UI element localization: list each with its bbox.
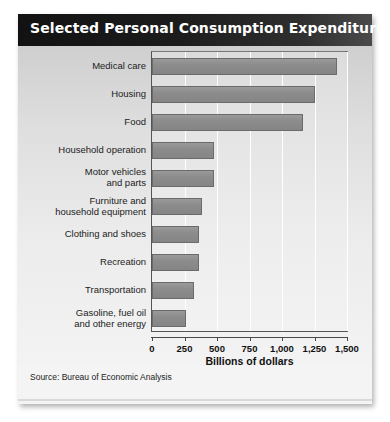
bar[interactable]: [152, 310, 186, 327]
bar[interactable]: [152, 226, 199, 243]
bar[interactable]: [152, 58, 337, 75]
bar[interactable]: [152, 86, 315, 103]
footer-divider: [18, 399, 372, 401]
x-axis-tick: [282, 337, 283, 341]
x-axis-tick: [217, 337, 218, 341]
category-label: Gasoline, fuel oiland other energy: [18, 307, 146, 329]
bar[interactable]: [152, 170, 214, 187]
bar-row: [152, 142, 347, 159]
category-label: Medical care: [18, 60, 146, 71]
bar-row: [152, 58, 347, 75]
category-label-line: Furniture and: [18, 195, 146, 206]
chart-body: Medical careHousingFoodHousehold operati…: [18, 46, 372, 366]
category-label: Household operation: [18, 144, 146, 155]
category-label: Motor vehiclesand parts: [18, 166, 146, 188]
category-label: Transportation: [18, 284, 146, 295]
category-label-line: Housing: [18, 88, 146, 99]
category-label-line: Transportation: [18, 284, 146, 295]
chart-footer: Source: Bureau of Economic Analysis: [18, 366, 372, 404]
chart-screenshot: Selected Personal Consumption Expenditur…: [0, 0, 390, 422]
x-axis-tick-label: 1,000: [270, 343, 294, 354]
bar-row: [152, 310, 347, 327]
x-axis-tick-label: 1,250: [303, 343, 327, 354]
category-label-line: and other energy: [18, 318, 146, 329]
category-label-line: Gasoline, fuel oil: [18, 307, 146, 318]
category-label-line: Motor vehicles: [18, 166, 146, 177]
bar-row: [152, 198, 347, 215]
bar[interactable]: [152, 114, 303, 131]
x-axis-tick: [315, 337, 316, 341]
category-label-line: household equipment: [18, 206, 146, 217]
x-axis-tick-label: 750: [242, 343, 258, 354]
category-label-line: Food: [18, 116, 146, 127]
category-label-line: Household operation: [18, 144, 146, 155]
x-axis-tick-label: 250: [177, 343, 193, 354]
page-title: Selected Personal Consumption Expenditur…: [30, 20, 390, 36]
bar-row: [152, 226, 347, 243]
category-label: Housing: [18, 88, 146, 99]
category-label: Clothing and shoes: [18, 228, 146, 239]
bar[interactable]: [152, 198, 202, 215]
bar-row: [152, 114, 347, 131]
bar[interactable]: [152, 282, 194, 299]
bar[interactable]: [152, 142, 214, 159]
bar-row: [152, 282, 347, 299]
category-label-line: and parts: [18, 177, 146, 188]
x-axis-tick: [250, 337, 251, 341]
category-label: Recreation: [18, 256, 146, 267]
bar[interactable]: [152, 254, 199, 271]
x-axis-tick: [347, 337, 348, 341]
bar-row: [152, 86, 347, 103]
gridline: [347, 52, 348, 331]
bar-row: [152, 170, 347, 187]
category-label: Furniture andhousehold equipment: [18, 195, 146, 217]
bar-row: [152, 254, 347, 271]
chart-title-band: Selected Personal Consumption Expenditur…: [18, 14, 372, 46]
x-axis-tick: [185, 337, 186, 341]
category-label: Food: [18, 116, 146, 127]
x-axis-tick: [152, 337, 153, 341]
source-note: Source: Bureau of Economic Analysis: [30, 372, 172, 382]
chart-card: Selected Personal Consumption Expenditur…: [18, 14, 372, 404]
category-label-line: Medical care: [18, 60, 146, 71]
category-label-column: Medical careHousingFoodHousehold operati…: [18, 52, 146, 332]
plot-area: [151, 51, 348, 332]
x-axis-tick-label: 0: [149, 343, 154, 354]
x-axis-tick-label: 500: [209, 343, 225, 354]
category-label-line: Clothing and shoes: [18, 228, 146, 239]
x-axis-tick-label: 1,500: [335, 343, 359, 354]
category-label-line: Recreation: [18, 256, 146, 267]
